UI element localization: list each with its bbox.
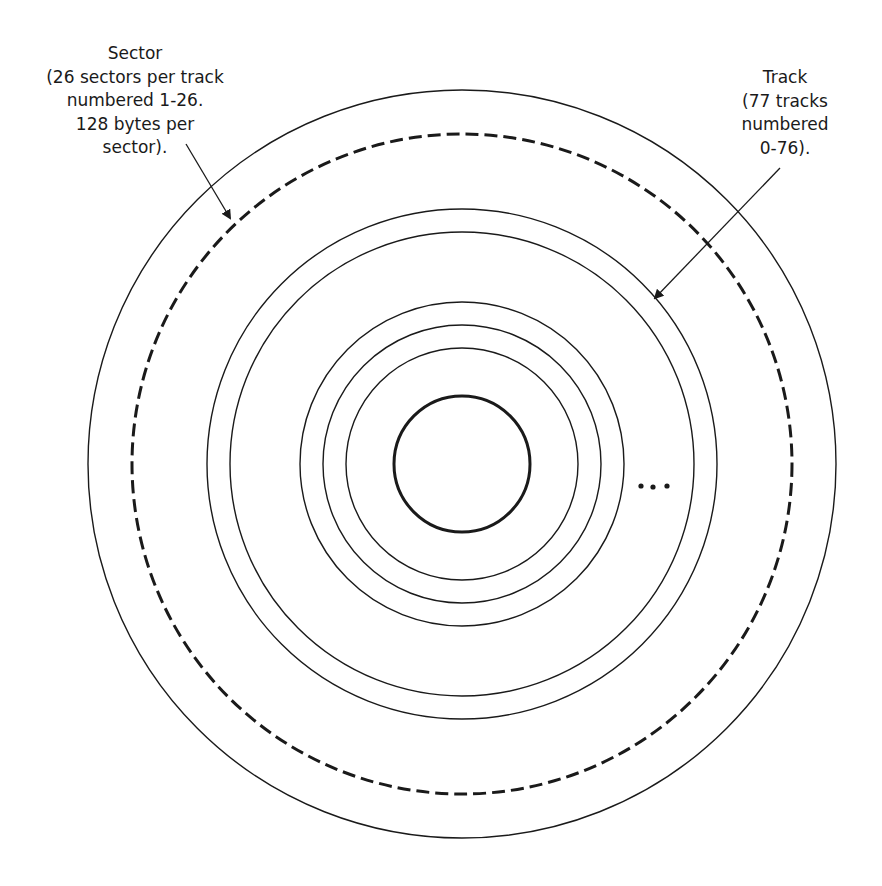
track-ring-1 bbox=[207, 209, 717, 719]
track-ring-5 bbox=[346, 348, 578, 580]
sector-label-line: 128 bytes per bbox=[46, 113, 224, 137]
track-ring-4 bbox=[323, 325, 601, 603]
track-circles bbox=[88, 90, 836, 838]
sector-label-line: Sector bbox=[46, 42, 224, 66]
sector-label-line: sector). bbox=[46, 136, 224, 160]
track-label: Track (77 tracks numbered 0-76). bbox=[741, 66, 828, 160]
track-label-line: 0-76). bbox=[741, 137, 828, 161]
track-arrow bbox=[655, 168, 780, 298]
sector-track-dashed bbox=[132, 134, 792, 794]
sector-label-line: numbered 1-26. bbox=[46, 89, 224, 113]
track-ring-3 bbox=[300, 302, 624, 626]
sector-label-line: (26 sectors per track bbox=[46, 66, 224, 90]
track-label-line: numbered bbox=[741, 113, 828, 137]
track-label-line: Track bbox=[741, 66, 828, 90]
sector-label: Sector (26 sectors per track numbered 1-… bbox=[46, 42, 224, 160]
more-tracks-ellipsis bbox=[638, 483, 669, 489]
disk-outer-edge bbox=[88, 90, 836, 838]
hub-hole bbox=[394, 396, 530, 532]
track-label-line: (77 tracks bbox=[741, 90, 828, 114]
